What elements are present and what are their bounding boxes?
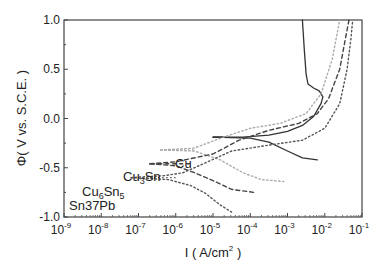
curve-cu6sn5-cathodic: [150, 164, 254, 193]
series-label-cu: Cu: [175, 156, 192, 171]
y-tick-label: 1.0: [43, 13, 60, 27]
y-tick-label: 0.0: [43, 112, 60, 126]
series-label-cu3sn: Cu3Sn: [123, 169, 161, 186]
x-tick-label: 10-3: [274, 221, 295, 237]
polarization-chart: 10-910-810-710-610-510-410-310-210-1 -1.…: [0, 0, 386, 276]
x-tick-label: 10-8: [88, 221, 109, 237]
x-tick-label: 10-4: [237, 221, 258, 237]
y-tick-label: -1.0: [39, 210, 60, 224]
x-tick-label: 10-1: [349, 221, 370, 237]
x-tick-label: 10-5: [200, 221, 221, 237]
y-tick-label: -0.5: [39, 161, 60, 175]
curve-sn37pb-anodic: [131, 20, 353, 178]
y-tick-label: 0.5: [43, 62, 60, 76]
series-label-sn37pb: Sn37Pb: [69, 198, 115, 213]
y-axis-title: Φ( V vs. S.C.E. ): [14, 70, 29, 166]
x-tick-label: 10-7: [125, 221, 146, 237]
x-tick-label: 10-6: [163, 221, 184, 237]
curves: [131, 20, 353, 212]
curve-cu3sn-anodic: [161, 20, 340, 150]
x-axis-title: I ( A/cm2 ): [185, 244, 241, 260]
x-tick-label: 10-2: [312, 221, 333, 237]
